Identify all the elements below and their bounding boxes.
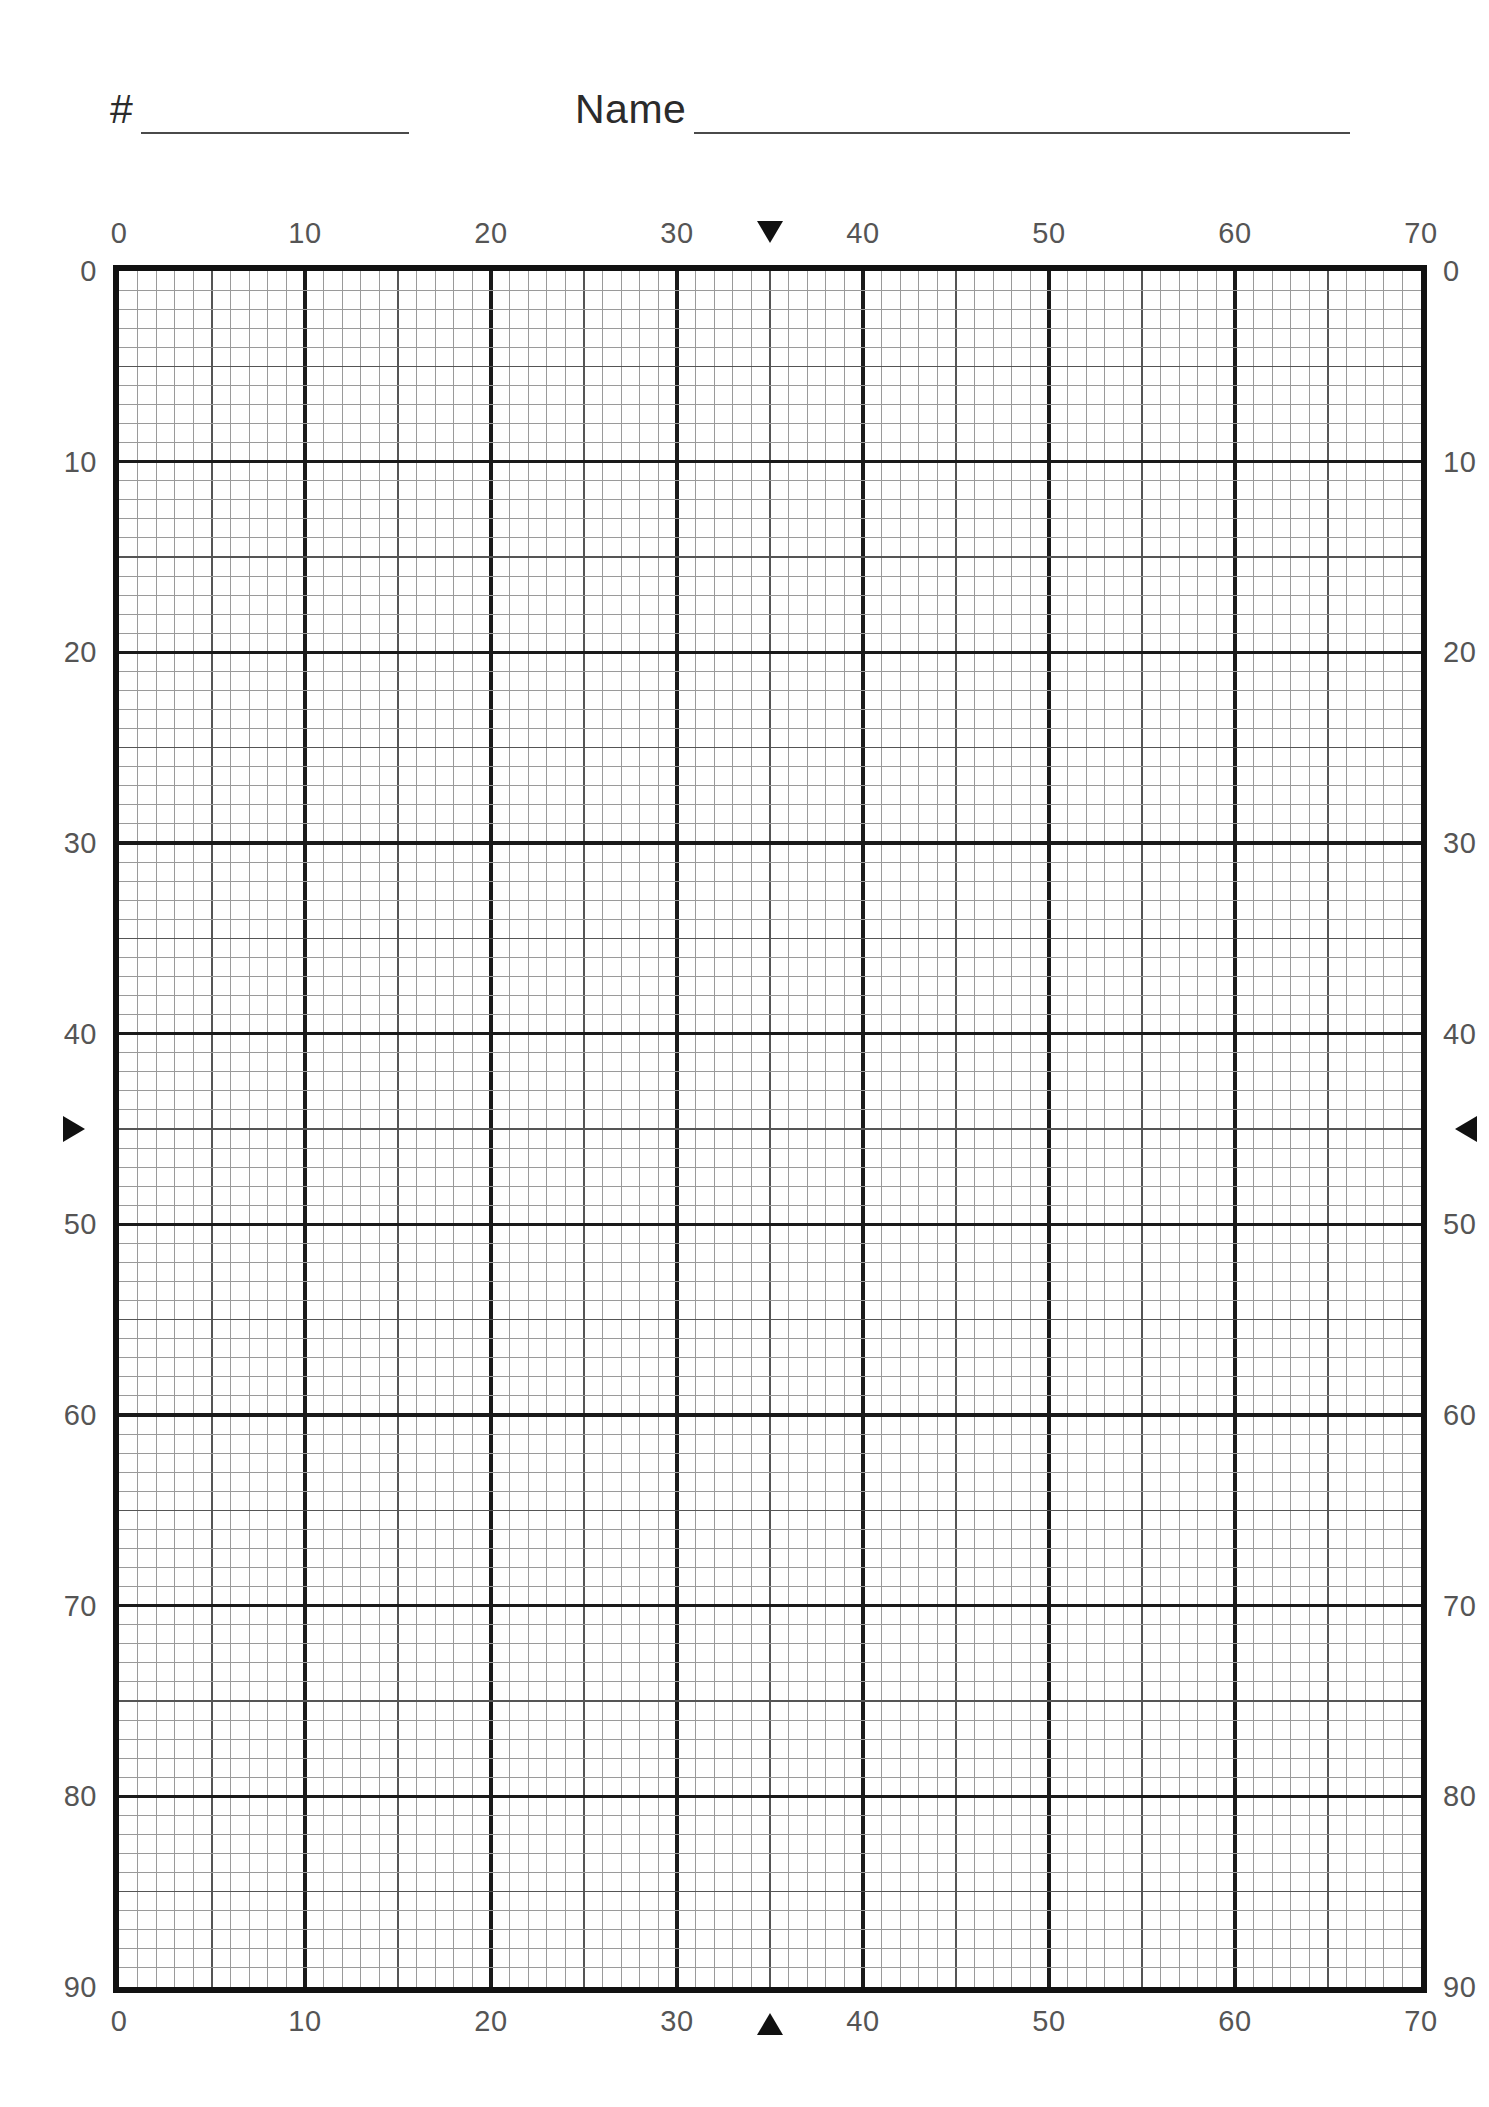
x-tick-bottom-60: 60 [1218,2007,1251,2036]
y-tick-left-40: 40 [53,1019,97,1048]
right-marker-icon [1455,1116,1477,1142]
grid-lines [119,271,1421,1987]
y-tick-right-30: 30 [1443,829,1487,858]
left-marker-icon [63,1116,85,1142]
grid-frame [113,265,1427,1993]
y-tick-left-80: 80 [53,1782,97,1811]
graph-paper: 0010102020303040405050606070700010102020… [0,0,1489,2107]
y-tick-left-70: 70 [53,1591,97,1620]
x-tick-top-50: 50 [1032,219,1065,248]
y-tick-right-10: 10 [1443,447,1487,476]
x-tick-bottom-0: 0 [111,2007,128,2036]
y-tick-right-90: 90 [1443,1973,1487,2002]
x-tick-bottom-70: 70 [1404,2007,1437,2036]
y-tick-left-20: 20 [53,638,97,667]
y-tick-left-10: 10 [53,447,97,476]
x-tick-top-40: 40 [846,219,879,248]
x-tick-top-60: 60 [1218,219,1251,248]
top-marker-icon [757,221,783,243]
y-tick-right-60: 60 [1443,1401,1487,1430]
x-tick-top-30: 30 [660,219,693,248]
x-tick-bottom-40: 40 [846,2007,879,2036]
x-tick-bottom-20: 20 [474,2007,507,2036]
y-tick-right-40: 40 [1443,1019,1487,1048]
y-tick-left-0: 0 [53,257,97,286]
x-tick-top-20: 20 [474,219,507,248]
x-tick-bottom-50: 50 [1032,2007,1065,2036]
y-tick-right-50: 50 [1443,1210,1487,1239]
x-tick-top-0: 0 [111,219,128,248]
y-tick-right-70: 70 [1443,1591,1487,1620]
y-tick-right-80: 80 [1443,1782,1487,1811]
bottom-marker-icon [757,2013,783,2035]
x-tick-top-70: 70 [1404,219,1437,248]
x-tick-bottom-30: 30 [660,2007,693,2036]
x-tick-top-10: 10 [288,219,321,248]
y-tick-left-60: 60 [53,1401,97,1430]
y-tick-right-20: 20 [1443,638,1487,667]
y-tick-left-50: 50 [53,1210,97,1239]
y-tick-left-90: 90 [53,1973,97,2002]
x-tick-bottom-10: 10 [288,2007,321,2036]
y-tick-right-0: 0 [1443,257,1487,286]
y-tick-left-30: 30 [53,829,97,858]
